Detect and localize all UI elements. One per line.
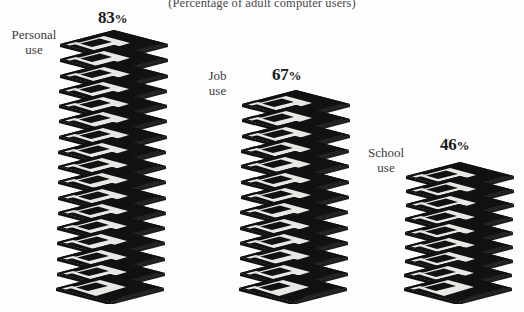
category-label-job: Job use	[190, 68, 245, 98]
floppy-disk-icon	[237, 270, 349, 304]
infographic-canvas: (Percentage of adult computer users) Per…	[0, 0, 524, 312]
chart-subtitle: (Percentage of adult computer users)	[0, 0, 524, 11]
disk-stack-personal	[58, 26, 176, 300]
value-number-job: 67	[272, 65, 289, 84]
value-number-personal: 83	[98, 8, 115, 27]
value-number-school: 46	[440, 135, 457, 154]
value-label-job: 67%	[272, 65, 301, 85]
value-label-personal: 83%	[98, 8, 127, 28]
category-label-job-line1: Job	[208, 68, 226, 83]
value-label-school: 46%	[440, 135, 469, 155]
percent-sign-icon: %	[457, 138, 470, 153]
category-label-school-line1: School	[368, 145, 404, 160]
category-label-job-line2: use	[190, 83, 245, 98]
percent-sign-icon: %	[289, 68, 302, 83]
disk-stack-job	[240, 86, 358, 300]
category-label-personal-line1: Personal	[12, 27, 57, 42]
percent-sign-icon: %	[115, 11, 128, 26]
floppy-disk-icon	[54, 270, 166, 304]
disk-stack-school	[404, 158, 522, 300]
floppy-disk-icon	[402, 270, 514, 304]
